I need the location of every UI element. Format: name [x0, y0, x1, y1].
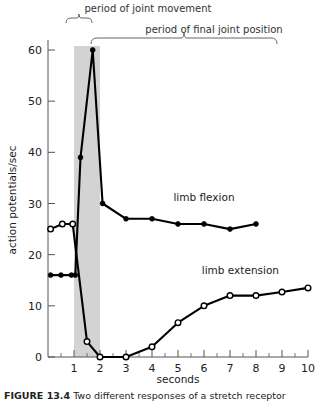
x-tick-label-7: 7 [227, 362, 234, 375]
data-point [70, 221, 76, 227]
y-tick-label-30: 30 [28, 198, 42, 211]
x-tick-label-9: 9 [279, 362, 286, 375]
data-point [176, 222, 181, 227]
data-point [305, 285, 311, 291]
data-point [123, 354, 129, 360]
figure-caption-label: FIGURE 13.4 [4, 391, 70, 401]
data-point [100, 201, 105, 206]
x-tick-label-1: 1 [71, 362, 78, 375]
data-point [48, 226, 54, 232]
y-tick-label-60: 60 [28, 44, 42, 57]
y-tick-label-20: 20 [28, 249, 42, 262]
data-point [97, 354, 103, 360]
data-point [254, 222, 259, 227]
x-tick-label-4: 4 [149, 362, 156, 375]
data-point [175, 320, 181, 326]
y-tick-group: 0102030405060 [28, 44, 55, 364]
data-point [124, 216, 129, 221]
data-point [149, 344, 155, 350]
y-tick-label-40: 40 [28, 146, 42, 159]
series-label-limb-extension: limb extension [202, 264, 279, 276]
figure-caption: FIGURE 13.4 Two different responses of a… [4, 391, 315, 401]
figure-container: 0102030405060 12345678910 action potenti… [0, 0, 319, 401]
x-tick-label-3: 3 [123, 362, 130, 375]
data-point [60, 221, 66, 227]
annotation-label-final-joint-position: period of final joint position [145, 24, 282, 35]
bracket-joint-movement [66, 14, 92, 23]
y-tick-label-10: 10 [28, 300, 42, 313]
x-tick-label-10: 10 [301, 362, 315, 375]
figure-caption-body: Two different responses of a stretch rec… [73, 391, 286, 401]
data-point [201, 303, 207, 309]
y-axis-title: action potentials/sec [6, 145, 18, 254]
x-tick-label-6: 6 [201, 362, 208, 375]
y-tick-label-0: 0 [35, 351, 42, 364]
x-axis-title: seconds [157, 373, 200, 385]
data-point [253, 293, 259, 299]
x-tick-label-2: 2 [97, 362, 104, 375]
data-point [202, 222, 207, 227]
x-tick-label-8: 8 [253, 362, 260, 375]
data-point [78, 155, 83, 160]
data-point [48, 273, 53, 278]
data-point [59, 273, 64, 278]
data-point [227, 293, 233, 299]
data-point [150, 216, 155, 221]
data-point [90, 48, 95, 53]
data-point [279, 289, 285, 295]
series-label-limb-flexion: limb flexion [173, 191, 234, 203]
annotation-label-joint-movement: period of joint movement [84, 3, 211, 14]
data-point [73, 273, 78, 278]
data-point [84, 339, 90, 345]
chart-canvas: 0102030405060 12345678910 action potenti… [0, 0, 319, 401]
y-tick-label-50: 50 [28, 95, 42, 108]
data-point [228, 227, 233, 232]
